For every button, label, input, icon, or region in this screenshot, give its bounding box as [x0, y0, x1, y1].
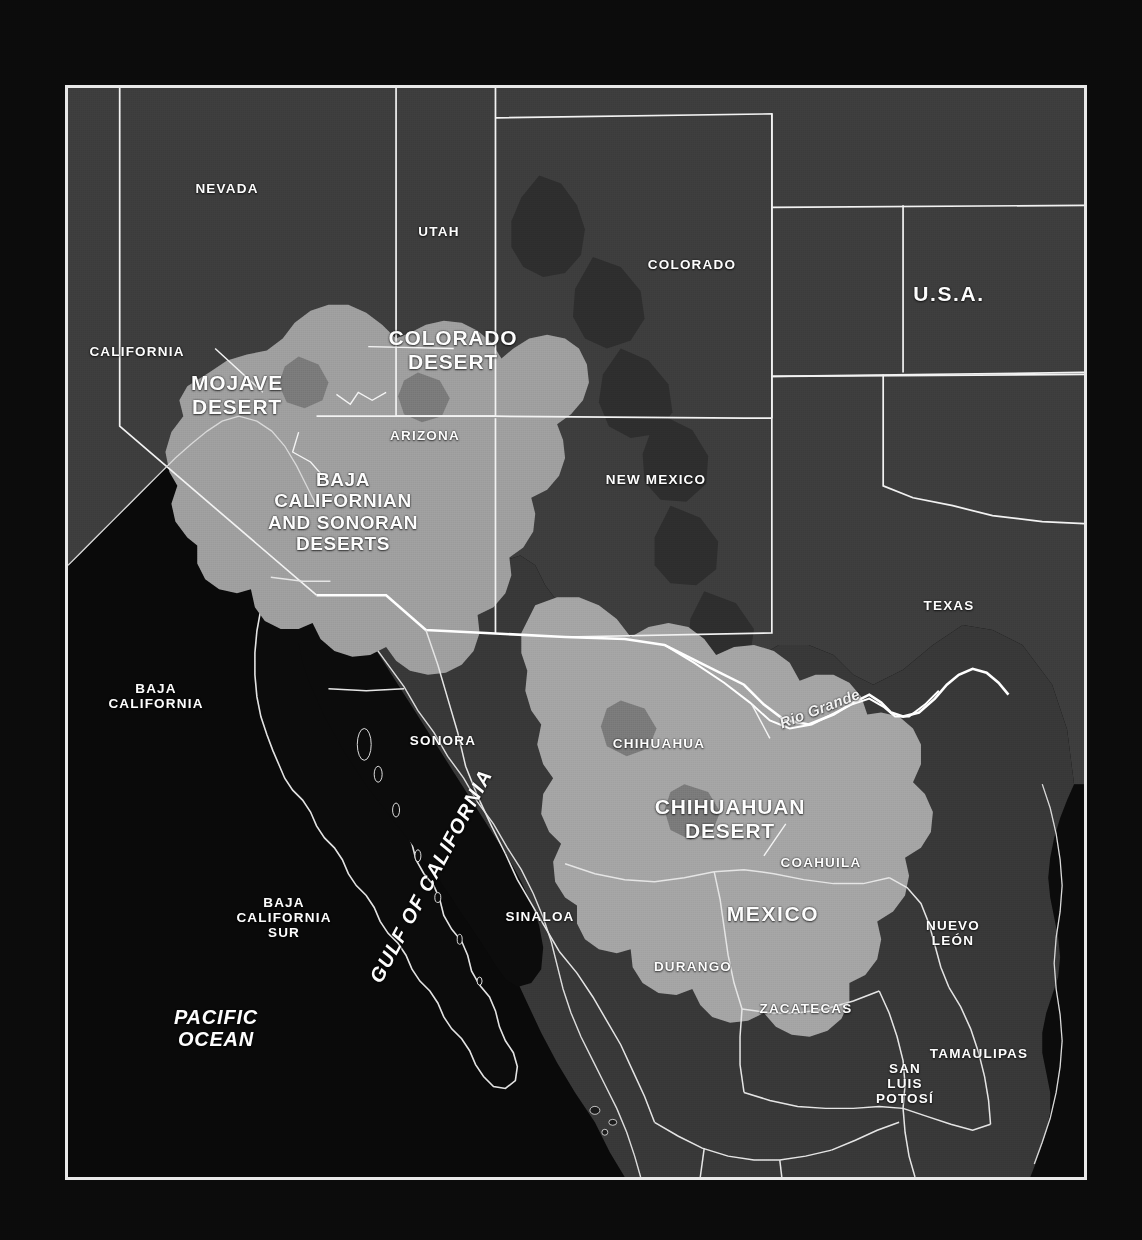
map-frame: 0 500 km: [65, 85, 1087, 1180]
map-page: 0 500 km U.S.A.MEXICONEVADAUTAHCOLORADOC…: [0, 0, 1142, 1240]
map-canvas: [68, 88, 1084, 1177]
